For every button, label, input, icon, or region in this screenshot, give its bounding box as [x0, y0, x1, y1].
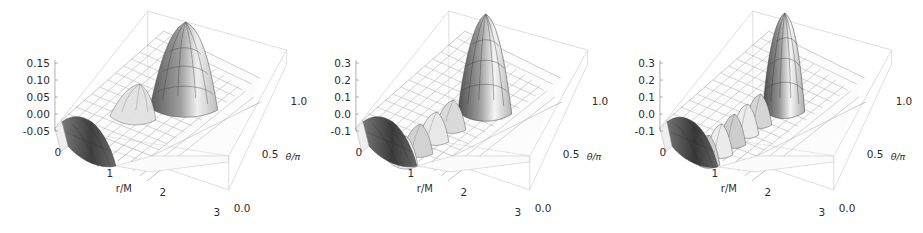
- panel-2-xtick-3: 3: [514, 206, 521, 218]
- panel-2-front-skirt: [416, 156, 529, 172]
- panel-2-ztick-0: 0.3: [334, 57, 351, 69]
- panel-2-ztick-3: 0.0: [334, 108, 351, 120]
- panel-1-xtick-2: 2: [159, 186, 166, 198]
- panel-3-ytick-2: 0.0: [839, 202, 856, 214]
- panel-3-ytick-0: 1.0: [896, 95, 913, 107]
- panel-1-canvas: 0.15 0.10 0.05 0.00 -0.05 0 1 2 3 r/M 1.…: [0, 0, 308, 233]
- panel-2-ztick-1: 0.2: [334, 74, 351, 86]
- panel-1-ztick-3: 0.00: [27, 108, 50, 120]
- panel-3-ztick-4: -0.1: [635, 125, 655, 137]
- panel-3-xtick-1: 1: [712, 167, 719, 179]
- panel-3-ztick-2: 0.1: [638, 91, 655, 103]
- panel-3-ztick-0: 0.3: [638, 57, 655, 69]
- panel-2-ytick-2: 0.0: [534, 202, 551, 214]
- panel-1-ytick-1: 0.5: [262, 148, 279, 160]
- panel-3-z-axis: [660, 60, 663, 131]
- panel-1-yaxis-label: θ/π: [286, 151, 301, 162]
- panel-3-xtick-2: 2: [765, 186, 772, 198]
- surface-plot-panel-3: 0.3 0.2 0.1 0.0 -0.1 0 1 2 3 r/M 1.0 0.5…: [615, 0, 923, 233]
- surface-plot-panel-2: 0.3 0.2 0.1 0.0 -0.1 0 1 2 3 r/M 1.0 0.5…: [308, 0, 616, 233]
- panel-1-ztick-2: 0.05: [27, 91, 50, 103]
- panel-2-z-axis: [356, 60, 359, 131]
- panel-2-xtick-2: 2: [460, 186, 467, 198]
- panel-2-yaxis-label: θ/π: [586, 151, 601, 162]
- panel-2-xtick-1: 1: [407, 167, 414, 179]
- panel-2-xtick-0: 0: [355, 146, 362, 158]
- panel-3-xtick-3: 3: [819, 206, 826, 218]
- panel-3-front-skirt: [718, 156, 834, 172]
- panel-1-ztick-4: -0.05: [23, 125, 50, 137]
- panel-1-ytick-0: 1.0: [291, 95, 308, 107]
- panel-1-z-axis: [55, 60, 58, 131]
- panel-2-canvas: 0.3 0.2 0.1 0.0 -0.1 0 1 2 3 r/M 1.0 0.5…: [308, 0, 616, 233]
- panel-3-yaxis-label: θ/π: [891, 151, 906, 162]
- panel-1-xaxis-label: r/M: [116, 183, 132, 194]
- panel-2-xaxis-label: r/M: [416, 183, 432, 194]
- panel-1-xtick-1: 1: [107, 167, 114, 179]
- panel-3-ztick-1: 0.2: [638, 74, 655, 86]
- panel-1-xtick-3: 3: [213, 206, 220, 218]
- panel-2-ztick-2: 0.1: [334, 91, 351, 103]
- panel-3-ztick-3: 0.0: [638, 108, 655, 120]
- panel-3-xaxis-label: r/M: [721, 183, 737, 194]
- figure-three-surface-plots: 0.15 0.10 0.05 0.00 -0.05 0 1 2 3 r/M 1.…: [0, 0, 923, 233]
- panel-3-canvas: 0.3 0.2 0.1 0.0 -0.1 0 1 2 3 r/M 1.0 0.5…: [615, 0, 923, 233]
- panel-1-ytick-2: 0.0: [234, 202, 251, 214]
- panel-2-ytick-0: 1.0: [591, 95, 608, 107]
- panel-2-ztick-4: -0.1: [330, 125, 350, 137]
- panel-1-xtick-0: 0: [55, 146, 62, 158]
- panel-1-ztick-0: 0.15: [27, 57, 50, 69]
- surface-plot-panel-1: 0.15 0.10 0.05 0.00 -0.05 0 1 2 3 r/M 1.…: [0, 0, 308, 233]
- panel-1-front-skirt: [116, 156, 229, 172]
- panel-3-xtick-0: 0: [660, 146, 667, 158]
- panel-2-ytick-1: 0.5: [562, 148, 579, 160]
- panel-3-ytick-1: 0.5: [867, 148, 884, 160]
- panel-1-ztick-1: 0.10: [27, 74, 50, 86]
